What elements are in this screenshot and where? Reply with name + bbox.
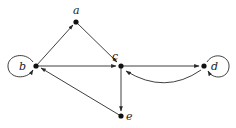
node-b bbox=[33, 63, 38, 68]
node-c bbox=[118, 63, 123, 68]
node-label-d: d bbox=[211, 60, 218, 73]
node-label-b: b bbox=[19, 60, 26, 73]
node-label-e: e bbox=[126, 110, 133, 123]
directed-graph: a b c d e bbox=[0, 0, 236, 128]
node-label-a: a bbox=[73, 4, 80, 17]
node-a bbox=[73, 19, 78, 24]
edge-b-to-a bbox=[36, 25, 73, 66]
edge-d-to-c bbox=[126, 70, 201, 83]
edge-a-to-c bbox=[76, 22, 117, 62]
node-d bbox=[201, 63, 206, 68]
node-e bbox=[118, 113, 123, 118]
edge-e-to-b bbox=[41, 68, 121, 116]
node-label-c: c bbox=[112, 50, 118, 63]
